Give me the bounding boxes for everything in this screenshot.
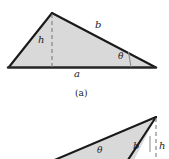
panel-a-label-theta: θ (118, 52, 123, 61)
panel-a-caption: (a) (75, 89, 87, 98)
panel-a-label-b: b (95, 20, 101, 30)
figure-container: h b a θ (a) h b θ (0, 0, 169, 159)
panel-a-group (8, 13, 156, 68)
panel-a-label-a: a (74, 69, 80, 79)
panel-b-label-h: h (159, 141, 165, 151)
panel-b-label-theta: θ (97, 146, 102, 155)
panel-b-label-b: b (133, 141, 139, 151)
triangle-diagram-svg (0, 0, 169, 159)
panel-a-label-h: h (38, 35, 44, 45)
